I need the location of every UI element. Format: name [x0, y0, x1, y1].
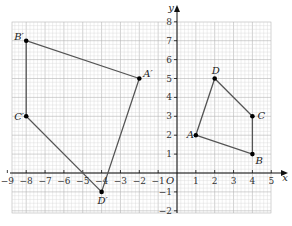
- x-tick-label: −6: [57, 176, 71, 186]
- x-tick-label: 5: [268, 176, 274, 186]
- y-tick-label: −1: [159, 187, 172, 197]
- vertex-point-icon: [24, 114, 29, 119]
- y-tick-label: 3: [166, 111, 172, 121]
- x-tick-label: 3: [231, 176, 237, 186]
- vertex-point-icon: [194, 133, 199, 138]
- x-tick-label: −9: [1, 176, 15, 186]
- x-tick-label: −1: [152, 176, 165, 186]
- vertex-label: D: [211, 65, 220, 76]
- vertex-label: B′: [13, 31, 24, 42]
- y-tick-label: −2: [159, 206, 172, 216]
- y-tick-label: 2: [166, 130, 172, 140]
- x-tick-label: −3: [114, 176, 128, 186]
- vertex-label: A: [186, 129, 194, 140]
- origin-label: O: [166, 175, 174, 186]
- y-tick-label: 8: [166, 17, 172, 27]
- x-tick-label: −2: [133, 176, 146, 186]
- y-axis-label: y: [167, 2, 174, 13]
- x-tick-label: 4: [250, 176, 256, 186]
- vertex-label: B: [254, 155, 262, 166]
- vertex-point-icon: [250, 114, 255, 119]
- y-axis-arrow-icon: [174, 5, 180, 12]
- vertex-label: C′: [14, 111, 25, 122]
- y-tick-label: 4: [166, 92, 172, 102]
- vertex-point-icon: [250, 152, 255, 157]
- vertex-label: D′: [97, 195, 109, 206]
- y-tick-label: 6: [166, 55, 172, 65]
- vertex-label: A′: [142, 68, 153, 79]
- vertex-point-icon: [99, 190, 104, 195]
- x-tick-label: −8: [20, 176, 34, 186]
- x-tick-label: −5: [76, 176, 90, 186]
- y-tick-label: 1: [166, 149, 172, 159]
- vertex-point-icon: [137, 76, 142, 81]
- vertex-point-icon: [212, 76, 217, 81]
- x-tick-label: −4: [95, 176, 109, 186]
- vertex-label: C: [257, 110, 265, 121]
- vertex-point-icon: [24, 38, 29, 43]
- y-tick-label: 7: [166, 36, 172, 46]
- x-tick-label: 2: [212, 176, 218, 186]
- x-tick-label: 1: [193, 176, 199, 186]
- x-axis-label: x: [282, 172, 288, 183]
- y-tick-label: 5: [166, 74, 172, 84]
- coordinate-plane: −9−8−7−6−5−4−3−2−112345−2−112345678OxyAB…: [0, 0, 292, 226]
- x-tick-label: −7: [38, 176, 52, 186]
